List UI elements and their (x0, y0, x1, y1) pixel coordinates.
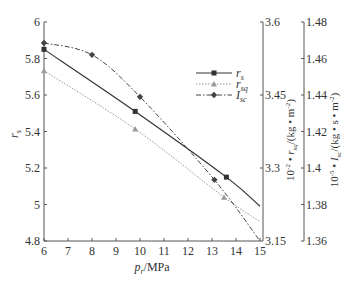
y-rsq-tick-label: 3.3 (265, 161, 280, 175)
axis-labels: pr/MPars10-2 • rsq/(kg • m-2)10-5 • Isc/… (7, 92, 343, 276)
triangle-marker-icon (132, 126, 138, 132)
y-rsq-tick-label: 3.6 (265, 15, 280, 29)
y-isc-tick-label: 1.36 (306, 234, 327, 248)
y-isc-tick-label: 1.44 (306, 88, 327, 102)
y-axis-right-rsq-label: 10-2 • rsq/(kg • m-2) (284, 99, 299, 181)
y-left-tick-label: 5.6 (25, 88, 40, 102)
x-axis-label: pr/MPa (133, 260, 170, 276)
y-left-tick-label: 5.8 (25, 52, 40, 66)
square-marker-icon (212, 71, 217, 76)
x-tick-label: 12 (182, 244, 194, 258)
y-left-tick-label: 5.4 (25, 125, 40, 139)
y-axis-right-isc-label: 10-5 • Isc/(kg • s • m-2) (328, 92, 343, 187)
diamond-marker-icon (89, 52, 95, 58)
x-tick-label: 8 (89, 244, 95, 258)
y-isc-tick-label: 1.4 (306, 161, 321, 175)
y-isc-tick-label: 1.48 (306, 15, 327, 29)
x-tick-label: 6 (41, 244, 47, 258)
y-rsq-tick-label: 3.15 (265, 234, 286, 248)
series-r-s (42, 47, 261, 206)
y-left-tick-label: 5 (34, 198, 40, 212)
plot-area (41, 40, 260, 241)
x-tick-label: 7 (65, 244, 71, 258)
diamond-marker-icon (211, 92, 217, 98)
y-left-tick-label: 4.8 (25, 234, 40, 248)
square-marker-icon (42, 47, 47, 52)
legend: rsrsqIsc (196, 66, 248, 104)
x-tick-label: 9 (113, 244, 119, 258)
y-left-tick-label: 6 (34, 15, 40, 29)
y-axis-left-label: rs (7, 130, 23, 138)
x-tick-label: 11 (158, 244, 170, 258)
x-tick-label: 13 (206, 244, 218, 258)
y-left-tick-label: 5.2 (25, 161, 40, 175)
square-marker-icon (224, 175, 229, 180)
square-marker-icon (133, 109, 138, 114)
series-line (44, 71, 260, 222)
y-rsq-tick-label: 3.45 (265, 88, 286, 102)
x-tick-label: 10 (134, 244, 146, 258)
x-tick-label: 14 (230, 244, 242, 258)
series-r-sq (41, 68, 260, 222)
legend-item-I-sc: Isc (196, 88, 247, 104)
diamond-marker-icon (41, 40, 47, 46)
chart: 67891011121314154.855.25.45.65.863.153.3… (0, 0, 354, 284)
y-isc-tick-label: 1.42 (306, 125, 327, 139)
legend-item-r-sq: rsq (196, 77, 248, 93)
y-isc-tick-label: 1.46 (306, 52, 327, 66)
triangle-marker-icon (41, 68, 47, 74)
y-isc-tick-label: 1.38 (306, 198, 327, 212)
axes: 67891011121314154.855.25.45.65.863.153.3… (25, 15, 327, 258)
